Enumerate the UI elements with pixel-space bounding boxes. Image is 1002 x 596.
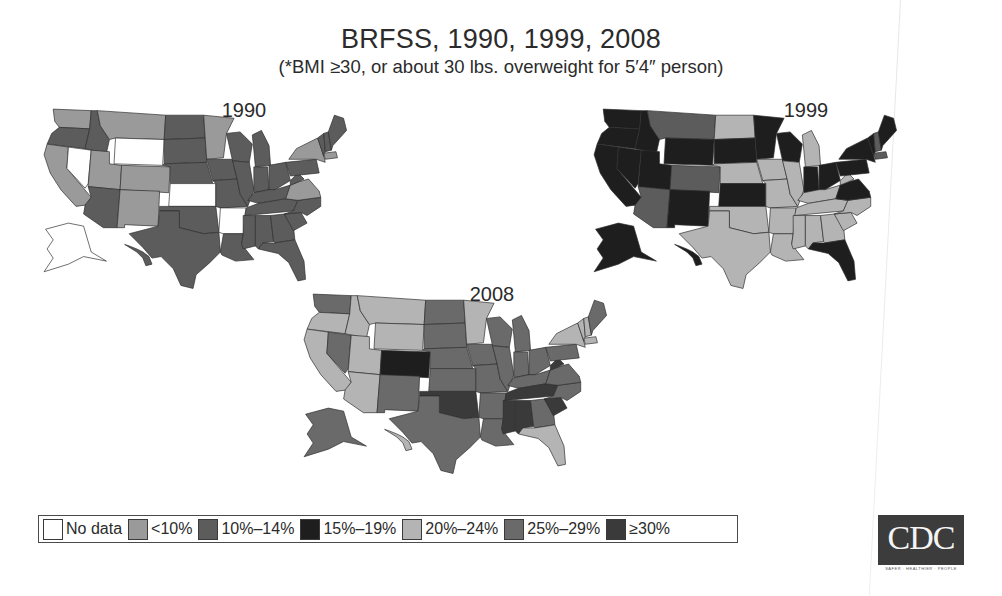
state-ma (584, 337, 598, 345)
state-az (634, 187, 670, 228)
state-ms (242, 216, 256, 249)
legend-item-15-19: 15%–19% (300, 519, 396, 540)
state-sd (714, 138, 757, 164)
cdc-tagline: SAFER · HEALTHIER · PEOPLE (878, 566, 964, 571)
state-nd (424, 300, 465, 324)
state-sd (424, 323, 467, 349)
state-in (514, 352, 529, 378)
scan-artifact-line (869, 0, 901, 595)
state-az (84, 187, 120, 228)
state-pa (286, 159, 319, 176)
map-1999 (580, 100, 900, 290)
cdc-logo: CDC (878, 515, 964, 565)
state-me (328, 115, 346, 150)
legend-item-20-24: 20%–24% (402, 519, 498, 540)
us-choropleth-map (30, 100, 350, 290)
us-choropleth-map (580, 100, 900, 290)
state-co (380, 350, 430, 377)
chart-title: BRFSS, 1990, 1999, 2008 (0, 24, 1002, 55)
legend: No data <10% 10%–14% 15%–19% 20%–24% 25%… (38, 515, 738, 543)
state-wy (374, 323, 424, 350)
state-ks (719, 184, 766, 207)
legend-item-lt10: <10% (128, 519, 192, 540)
state-mi (252, 130, 270, 166)
legend-swatch (504, 519, 524, 540)
state-in (254, 167, 269, 193)
state-ms (502, 401, 516, 434)
us-choropleth-map (290, 285, 610, 475)
state-me (588, 300, 606, 335)
state-wa (603, 109, 641, 129)
state-wy (114, 138, 164, 165)
state-ar (479, 393, 506, 419)
state-mt (357, 296, 425, 325)
state-ar (219, 208, 246, 234)
state-fl (518, 425, 565, 466)
state-pa (546, 344, 579, 361)
state-ne (713, 162, 763, 183)
state-mi (512, 315, 530, 351)
state-mt (97, 111, 165, 140)
legend-swatch (402, 519, 422, 540)
legend-swatch (606, 519, 626, 540)
map-2008 (290, 285, 610, 475)
state-ma (324, 152, 338, 160)
state-wi (776, 132, 802, 162)
state-wa (53, 109, 91, 129)
state-me (878, 115, 896, 150)
state-ms (792, 216, 806, 249)
state-ak (594, 223, 656, 272)
state-fl (808, 240, 855, 281)
state-pa (836, 159, 869, 176)
state-nm (117, 190, 160, 228)
state-co (670, 165, 720, 192)
state-nd (164, 115, 205, 139)
state-ma (874, 152, 888, 160)
state-mi (802, 130, 820, 166)
state-nd (714, 115, 755, 139)
chart-subtitle: (*BMI ≥30, or about 30 lbs. overweight f… (0, 56, 1002, 78)
legend-item-25-29: 25%–29% (504, 519, 600, 540)
state-ne (423, 347, 473, 368)
state-wa (313, 294, 351, 314)
state-nm (667, 190, 710, 228)
legend-item-30plus: ≥30% (606, 519, 670, 540)
state-ar (769, 208, 796, 234)
state-nm (377, 375, 420, 413)
legend-swatch (198, 519, 218, 540)
state-ks (429, 369, 476, 392)
state-fl (258, 240, 305, 281)
state-ne (163, 162, 213, 183)
state-sd (164, 138, 207, 164)
state-ak (304, 408, 366, 457)
state-mt (647, 111, 715, 140)
state-ak (44, 223, 106, 272)
map-1990 (30, 100, 350, 290)
state-ks (169, 184, 216, 207)
legend-item-no-data: No data (43, 519, 122, 540)
state-in (804, 167, 819, 193)
state-az (344, 372, 380, 413)
state-wy (664, 138, 714, 165)
legend-item-10-14: 10%–14% (198, 519, 294, 540)
state-wi (226, 132, 252, 162)
state-co (120, 165, 170, 192)
legend-swatch (300, 519, 320, 540)
state-wi (486, 317, 512, 347)
legend-swatch (43, 519, 63, 540)
legend-swatch (128, 519, 148, 540)
